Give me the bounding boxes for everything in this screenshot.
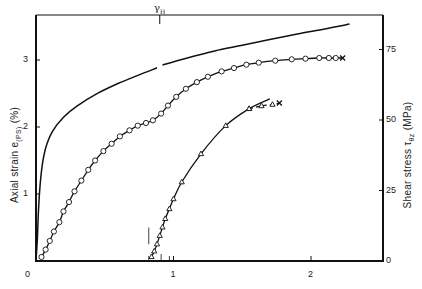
x-tick-label: 2: [308, 270, 313, 279]
circle-marker: [333, 55, 338, 60]
x-tick-label: 0: [25, 270, 30, 279]
triangle-marker: [270, 102, 275, 107]
circle-marker: [39, 254, 44, 259]
circle-marker: [109, 141, 114, 146]
circle-marker: [174, 94, 179, 99]
series-layer: [36, 24, 350, 261]
x-tick-label: 1: [171, 270, 176, 279]
circle-marker: [143, 120, 148, 125]
y-right-tick-label: 75: [386, 45, 396, 54]
triangle-marker: [167, 206, 172, 211]
gamma-h-annotation: γH: [154, 2, 165, 15]
circle-marker: [86, 167, 91, 172]
y-right-tick-label: 50: [386, 115, 396, 124]
circle-marker: [205, 74, 210, 79]
triangle-marker: [154, 241, 159, 246]
axial-strain-curve: [42, 58, 343, 257]
circle-marker: [231, 65, 236, 70]
circle-marker: [117, 134, 122, 139]
reload-curve: [152, 99, 270, 257]
circle-marker: [43, 247, 48, 252]
triangle-marker: [152, 248, 157, 253]
circle-marker: [303, 56, 308, 61]
circle-marker: [159, 111, 164, 116]
circle-marker: [79, 178, 84, 183]
circle-marker: [127, 128, 132, 133]
triangle-marker: [157, 233, 162, 238]
circle-marker: [150, 118, 155, 123]
circle-marker: [289, 57, 294, 62]
circle-marker: [244, 62, 249, 67]
y-left-tick-label: 2: [23, 122, 28, 131]
circle-marker: [165, 103, 170, 108]
circle-marker: [61, 209, 66, 214]
circle-marker: [326, 55, 331, 60]
circle-marker: [183, 86, 188, 91]
y-right-axis-title: Shear stress τθz (MPa): [402, 102, 415, 209]
triangle-marker: [171, 196, 176, 201]
circle-marker: [273, 58, 278, 63]
y-right-tick-label: 0: [386, 256, 391, 265]
triangle-marker: [149, 254, 154, 259]
circle-marker: [51, 229, 56, 234]
circle-marker: [72, 189, 77, 194]
y-left-tick-label: 1: [23, 189, 28, 198]
circle-marker: [47, 238, 52, 243]
circle-marker: [219, 69, 224, 74]
circle-marker: [317, 55, 322, 60]
circle-marker: [66, 199, 71, 204]
circle-marker: [135, 123, 140, 128]
circle-marker: [256, 60, 261, 65]
circle-marker: [57, 220, 62, 225]
y-left-axis-title: Axial strain e(PS) (%): [9, 107, 22, 203]
circle-marker: [101, 149, 106, 154]
triangle-marker: [160, 224, 165, 229]
circle-marker: [194, 80, 199, 85]
triangle-marker: [163, 216, 168, 221]
y-left-tick-label: 3: [23, 55, 28, 64]
chart-canvas: [0, 0, 422, 289]
circle-marker: [93, 158, 98, 163]
y-right-tick-label: 25: [386, 186, 396, 195]
